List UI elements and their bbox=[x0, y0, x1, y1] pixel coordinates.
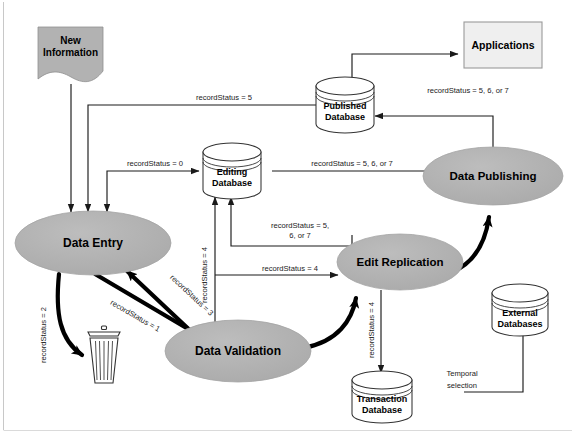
new-information-label-line1: New bbox=[60, 35, 81, 46]
applications-label: Applications bbox=[471, 39, 534, 51]
edit-replication-label: Edit Replication bbox=[357, 256, 444, 268]
node-data-validation[interactable]: Data Validation bbox=[165, 320, 311, 382]
node-applications[interactable]: Applications bbox=[464, 22, 542, 68]
edge-data-publishing-to-published-database bbox=[375, 116, 493, 149]
label-validation-to-replication: recordStatus = 4 bbox=[262, 264, 318, 273]
label-publishing-to-published: recordStatus = 5, 6, or 7 bbox=[427, 86, 509, 95]
label-entry-to-editing: recordStatus = 0 bbox=[127, 159, 183, 168]
label-entry-to-validation: recordStatus = 1 bbox=[109, 298, 162, 334]
edge-published-to-data-entry bbox=[88, 105, 316, 212]
node-transaction-database[interactable]: Transaction Database bbox=[352, 371, 412, 423]
label-validation-to-editing: recordStatus = 4 bbox=[200, 247, 209, 303]
label-editing-to-publishing: recordStatus = 5, 6, or 7 bbox=[311, 159, 393, 168]
edge-data-entry-to-editing-database bbox=[107, 171, 199, 177]
transaction-database-label-line2: Database bbox=[362, 405, 402, 415]
new-information-label-line2: Information bbox=[43, 47, 98, 58]
diagram-canvas: New Information Applications Published D… bbox=[0, 0, 580, 441]
label-replication-to-transaction: recordStatus = 4 bbox=[367, 302, 376, 358]
node-data-publishing[interactable]: Data Publishing bbox=[423, 147, 563, 205]
label-published-to-entry: recordStatus = 5 bbox=[196, 93, 252, 102]
label-temporal-selection-line1: Temporal bbox=[446, 369, 478, 378]
editing-database-label-line1: Editing bbox=[217, 167, 248, 177]
external-databases-label-line1: External bbox=[502, 308, 538, 318]
node-edit-replication[interactable]: Edit Replication bbox=[337, 234, 463, 290]
published-database-label-line2: Database bbox=[325, 112, 365, 122]
edge-data-validation-to-edit-replication bbox=[303, 298, 356, 348]
node-new-information[interactable]: New Information bbox=[38, 27, 103, 82]
node-data-entry[interactable]: Data Entry bbox=[15, 211, 171, 275]
edge-data-entry-to-trash bbox=[58, 274, 82, 355]
published-database-label-line1: Published bbox=[323, 101, 366, 111]
label-temporal-selection-line2: selection bbox=[447, 381, 477, 390]
node-editing-database[interactable]: Editing Database bbox=[203, 143, 261, 199]
transaction-database-label-line1: Transaction bbox=[357, 394, 408, 404]
data-publishing-label: Data Publishing bbox=[450, 170, 537, 182]
label-replication-to-editing-line2: 6, or 7 bbox=[289, 231, 311, 240]
label-entry-to-trash: recordStatus = 2 bbox=[39, 307, 48, 363]
data-entry-label: Data Entry bbox=[63, 236, 123, 250]
node-published-database[interactable]: Published Database bbox=[316, 77, 374, 133]
external-databases-label-line2: Databases bbox=[497, 319, 542, 329]
data-validation-label: Data Validation bbox=[195, 344, 281, 358]
trash-can-icon[interactable] bbox=[88, 326, 120, 383]
edge-published-database-to-applications bbox=[352, 54, 458, 79]
node-external-databases[interactable]: External Databases bbox=[492, 284, 548, 336]
editing-database-label-line2: Database bbox=[212, 178, 252, 188]
label-replication-to-editing-line1: recordStatus = 5, bbox=[271, 221, 329, 230]
